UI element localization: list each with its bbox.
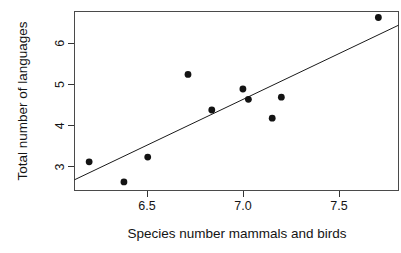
- x-tick-label-6-5: 6.5: [138, 199, 155, 213]
- x-tick-label-7-0: 7.0: [234, 199, 251, 213]
- y-axis-title: Total number of languages: [15, 21, 30, 180]
- data-point: [144, 154, 151, 161]
- data-point: [278, 94, 285, 101]
- data-point: [375, 14, 382, 21]
- y-tick-label-5: 5: [53, 81, 67, 88]
- data-point: [245, 96, 252, 103]
- data-point: [185, 71, 192, 78]
- x-tick-label-7-5: 7.5: [330, 199, 347, 213]
- data-point: [86, 158, 93, 165]
- y-tick-label-4: 4: [53, 122, 67, 129]
- data-point: [269, 115, 276, 122]
- scatter-plot-figure: 6 5 4 3 Total number of languages 6.5 7.…: [0, 0, 401, 253]
- data-point: [208, 107, 215, 114]
- y-tick-label-6: 6: [53, 40, 67, 47]
- data-point: [121, 179, 128, 186]
- plot-canvas: 6 5 4 3 Total number of languages 6.5 7.…: [0, 0, 401, 253]
- x-axis-title: Species number mammals and birds: [127, 226, 346, 241]
- data-point: [240, 86, 247, 93]
- y-tick-label-3: 3: [53, 163, 67, 170]
